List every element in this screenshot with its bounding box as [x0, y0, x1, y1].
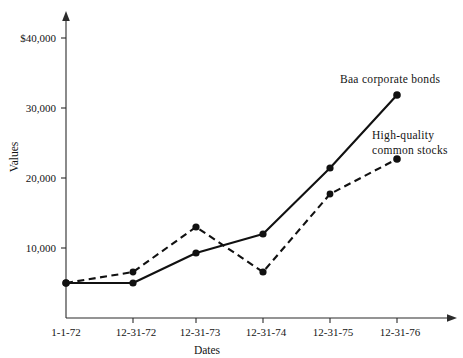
series-line-high-quality-common-stocks	[66, 159, 397, 283]
annotation-high-quality-line1: High-quality	[372, 129, 434, 142]
x-axis	[66, 314, 457, 322]
y-tick-label-30000: 30,000	[26, 102, 57, 114]
x-tick-label-3: 12-31-73	[180, 326, 221, 338]
x-tick-label-1: 1-1-72	[51, 326, 80, 338]
y-tick-marks	[61, 38, 66, 248]
x-tick-label-5: 12-31-75	[313, 326, 354, 338]
y-axis	[62, 11, 70, 318]
y-axis-title: Values	[8, 141, 20, 172]
x-tick-marks	[133, 318, 397, 323]
annotation-baa-corporate-bonds: Baa corporate bonds	[340, 73, 440, 86]
x-tick-label-4: 12-31-74	[246, 326, 287, 338]
x-axis-arrowhead	[447, 314, 457, 322]
x-axis-title: Dates	[194, 344, 221, 356]
x-tick-label-2: 12-31-72	[116, 326, 156, 338]
series-line-baa-corporate-bonds	[66, 95, 397, 283]
series-markers-baa-corporate-bonds	[62, 91, 401, 287]
y-tick-label-10000: 10,000	[26, 242, 57, 254]
y-axis-arrowhead	[62, 11, 70, 21]
y-tick-label-20000: 20,000	[26, 172, 57, 184]
series-markers-high-quality-common-stocks	[63, 155, 401, 286]
x-tick-label-6: 12-31-76	[380, 326, 421, 338]
y-tick-label-40000: $40,000	[20, 32, 56, 44]
annotation-high-quality-line2: common stocks	[372, 144, 448, 156]
chart-figure: $40,000 30,000 20,000 10,000 1-1-72 12-3…	[0, 0, 463, 358]
line-chart: $40,000 30,000 20,000 10,000 1-1-72 12-3…	[0, 0, 463, 358]
